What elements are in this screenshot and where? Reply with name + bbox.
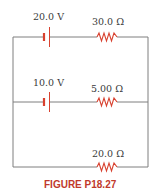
battery-label-top: 20.0 V — [33, 11, 64, 22]
resistor-label-top: 30.0 Ω — [92, 16, 124, 27]
resistor-icon — [97, 33, 117, 41]
circuit-diagram: 20.0 V 30.0 Ω 10.0 V 5.00 Ω 20.0 Ω FIGUR… — [0, 0, 153, 192]
battery-icon — [44, 92, 50, 112]
resistor-label-middle: 5.00 Ω — [91, 83, 123, 94]
resistor-label-bottom: 20.0 Ω — [92, 148, 124, 159]
branch-bottom: 20.0 Ω — [13, 148, 148, 171]
resistor-icon — [97, 163, 117, 171]
branch-middle: 10.0 V 5.00 Ω — [13, 77, 148, 112]
battery-label-middle: 10.0 V — [33, 77, 64, 88]
branch-top: 20.0 V 30.0 Ω — [13, 11, 148, 47]
resistor-icon — [97, 98, 117, 106]
figure-caption: FIGURE P18.27 — [44, 179, 117, 190]
battery-icon — [44, 27, 50, 47]
